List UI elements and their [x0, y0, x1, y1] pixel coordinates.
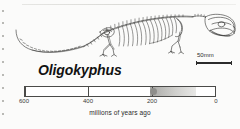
timeline-tick-labels: 600 400 200 0 [24, 98, 216, 107]
timeline-tick-400 [88, 87, 89, 96]
timeline-range-span [150, 87, 196, 96]
scale-bar: 50mm [196, 52, 238, 69]
scale-bar-line [196, 62, 232, 64]
scale-bar-cap-left [196, 61, 197, 65]
timeline-tick-600 [25, 87, 26, 96]
timeline-caption: millions of years ago [24, 109, 216, 116]
scale-bar-label: 50mm [196, 52, 238, 59]
scale-bar-rule [196, 61, 232, 65]
timeline-label-600: 600 [19, 98, 29, 104]
scale-bar-cap-right [231, 61, 232, 65]
timeline-label-200: 200 [147, 98, 157, 104]
figure-page: 50mm Oligokyphus 600 400 200 0 millions … [0, 0, 240, 129]
timeline-label-400: 400 [83, 98, 93, 104]
timeline-track [24, 86, 216, 97]
geological-timeline: 600 400 200 0 millions of years ago [24, 86, 216, 124]
timeline-label-0: 0 [214, 98, 217, 104]
timeline-occurrence-marker [150, 88, 157, 95]
genus-name: Oligokyphus [38, 62, 122, 78]
